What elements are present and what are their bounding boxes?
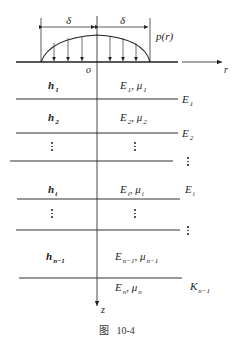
layer-1-thickness: h1: [48, 80, 59, 96]
interface-2-label: E2: [182, 128, 193, 144]
interface-i-label: Ei: [185, 184, 195, 200]
delta-dimension: [41, 18, 150, 62]
layer-n-1-thickness: hn−1: [46, 251, 65, 267]
layer-ellipsis-properties: [134, 142, 136, 153]
delta-right-label: δ: [120, 15, 125, 26]
z-axis-label: z: [101, 304, 105, 315]
origin-label: o: [86, 64, 91, 75]
interface-ellipsis-2: [187, 226, 189, 237]
interface-1-label: E1: [182, 94, 193, 110]
r-axis-label: r: [224, 64, 228, 75]
layer-ellipsis-properties-2: [134, 209, 136, 220]
layer-2-properties: E2, μ2: [120, 112, 147, 128]
figure-caption: 图 10-4: [99, 325, 135, 336]
layer-n-properties: En, μn: [115, 282, 142, 298]
interface-ellipsis: [187, 157, 189, 168]
load-label: p(r): [156, 31, 173, 42]
delta-left-label: δ: [66, 15, 71, 26]
layer-ellipsis-thickness: [51, 142, 53, 153]
interface-n-1-label: Kn−1: [190, 281, 210, 297]
layer-i-thickness: hi: [48, 184, 57, 200]
layer-ellipsis-thickness-2: [51, 209, 53, 220]
layer-i-properties: Ei, μi: [120, 184, 144, 200]
load-distribution-curve: [41, 35, 150, 62]
layer-1-properties: E1, μ1: [120, 80, 147, 96]
layer-n-1-properties: En−1, μn−1: [115, 251, 158, 267]
layer-2-thickness: h2: [48, 112, 59, 128]
